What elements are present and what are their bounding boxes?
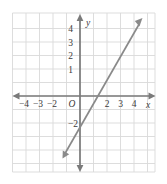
x-tick-label-neg2: −2 — [47, 99, 57, 109]
coordinate-plane-figure: −4 −3 −2 O 2 3 4 x 4 3 2 1 −2 y — [0, 0, 167, 184]
y-tick-label-2: 2 — [68, 51, 73, 61]
x-tick-label-2: 2 — [105, 99, 110, 109]
y-tick-label-neg2: −2 — [68, 119, 78, 129]
x-tick-label-neg3: −3 — [33, 99, 43, 109]
y-tick-label-3: 3 — [68, 38, 73, 48]
x-tick-label-4: 4 — [132, 99, 137, 109]
y-axis-name-label: y — [85, 18, 91, 28]
figure-background — [0, 0, 167, 184]
x-tick-label-neg4: −4 — [19, 99, 29, 109]
origin-label: O — [69, 99, 76, 109]
x-axis-name-label: x — [145, 100, 151, 110]
x-tick-label-3: 3 — [118, 99, 123, 109]
graph-canvas: −4 −3 −2 O 2 3 4 x 4 3 2 1 −2 y — [0, 0, 167, 184]
y-tick-label-4: 4 — [68, 24, 73, 34]
y-tick-label-1: 1 — [68, 65, 73, 75]
